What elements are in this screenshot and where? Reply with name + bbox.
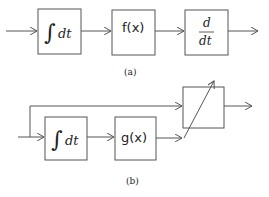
diagram-b: ∫ dt g(x) (b) (18, 81, 252, 186)
function-label-g: g(x) (121, 130, 147, 145)
differentiator-block: d dt (185, 10, 228, 55)
function-label-f: f(x) (122, 20, 144, 35)
block-diagram: ∫ dt f(x) d dt (a) ∫ dt g(x) (0, 0, 269, 197)
caption-a: (a) (124, 67, 136, 77)
integrator-block-b: ∫ dt (45, 117, 87, 160)
variable-block (183, 81, 224, 138)
integrator-label: dt (65, 133, 79, 148)
derivative-denominator: dt (199, 34, 212, 48)
diagram-a: ∫ dt f(x) d dt (a) (6, 9, 258, 77)
integral-sign: ∫ (44, 20, 56, 45)
integral-sign: ∫ (51, 127, 63, 152)
caption-b: (b) (126, 176, 139, 186)
integrator-label: dt (58, 26, 72, 41)
function-block-f: f(x) (112, 10, 155, 55)
function-block-g: g(x) (115, 117, 156, 160)
derivative-numerator: d (203, 16, 211, 30)
integrator-block-a: ∫ dt (38, 9, 81, 54)
